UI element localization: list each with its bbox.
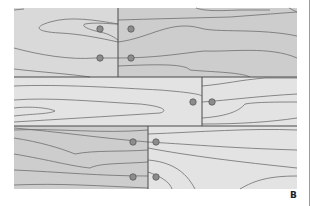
panel-label: B xyxy=(290,190,297,200)
dowel-icon xyxy=(153,139,159,145)
row-1-board-2 xyxy=(118,8,297,77)
plank-diagram-svg xyxy=(0,0,315,206)
dowel-icon xyxy=(130,139,136,145)
dowel-icon xyxy=(209,99,215,105)
dowel-icon xyxy=(153,174,159,180)
dowel-icon xyxy=(128,26,134,32)
dowel-icon xyxy=(190,99,196,105)
row-3-board-2 xyxy=(148,126,297,189)
dowel-icon xyxy=(128,55,134,61)
right-rule-divider xyxy=(309,0,310,206)
plank-diagram: B xyxy=(0,0,315,206)
dowel-icon xyxy=(97,55,103,61)
dowel-icon xyxy=(130,174,136,180)
row-2-board-1 xyxy=(14,77,202,126)
dowel-icon xyxy=(97,26,103,32)
row-1-board-1 xyxy=(14,8,118,77)
